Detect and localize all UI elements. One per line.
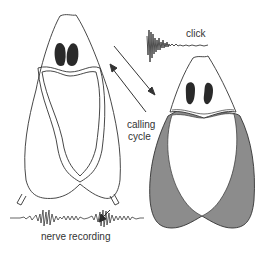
click-label: click <box>186 28 205 39</box>
nerve-recording-label: nerve recording <box>41 231 110 242</box>
right-figure <box>150 56 255 228</box>
cycle-label: cycle <box>128 131 151 142</box>
left-figure <box>17 15 120 205</box>
calling-label: calling <box>127 119 155 130</box>
nerve-recording-waveform <box>10 210 144 227</box>
left-vocal-glands <box>55 43 79 66</box>
